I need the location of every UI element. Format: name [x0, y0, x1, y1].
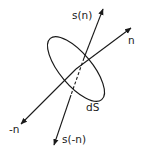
label-minus-n: -n — [9, 123, 19, 135]
normal-minus-n-arrow — [21, 69, 76, 124]
label-dS: dS — [86, 101, 100, 113]
normal-n-arrow — [76, 28, 131, 69]
label-n: n — [128, 34, 135, 46]
label-s-n: s(n) — [72, 9, 92, 21]
surface-element-diagram: s(n) n -n s(-n) dS — [0, 0, 144, 151]
label-s-minus-n: s(-n) — [62, 133, 86, 145]
